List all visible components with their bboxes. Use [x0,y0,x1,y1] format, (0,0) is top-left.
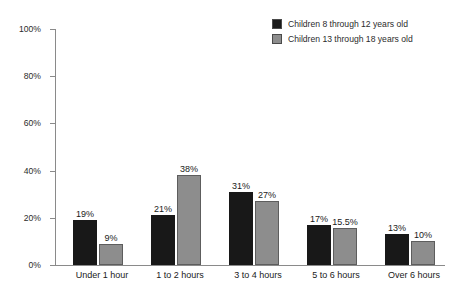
y-axis-tick-label: 100% [19,24,41,34]
y-axis-tick: 60% [50,123,55,124]
bar: 15.5% [333,228,357,265]
y-axis-tick: 40% [50,171,55,172]
bar-value-label: 38% [180,164,198,174]
bar: 17% [307,225,331,265]
x-axis-line [55,265,445,266]
y-axis-tick: 100% [50,29,55,30]
bar-value-label: 10% [414,230,432,240]
bar-value-label: 21% [154,204,172,214]
y-axis-tick: 0% [50,265,55,266]
x-axis-category-label: 1 to 2 hours [141,270,219,280]
legend-label-children-8-12: Children 8 through 12 years old [288,19,408,29]
bar-value-label: 17% [310,214,328,224]
bar: 31% [229,192,253,265]
bar-value-label: 27% [258,190,276,200]
bar-value-label: 13% [388,223,406,233]
bar-group: 13%10% [375,29,453,265]
y-axis-tick: 20% [50,218,55,219]
bar: 21% [151,215,175,265]
bar: 10% [411,241,435,265]
y-axis-tick-label: 60% [24,118,41,128]
bar-group: 31%27% [219,29,297,265]
x-axis-category-label: Over 6 hours [375,270,453,280]
y-axis-tick: 80% [50,76,55,77]
bar: 13% [385,234,409,265]
x-axis-category-label: 5 to 6 hours [297,270,375,280]
legend-swatch-icon-dark [272,19,282,29]
bar: 38% [177,175,201,265]
bar: 9% [99,244,123,265]
bar-chart: Children 8 through 12 years old Children… [0,0,465,302]
y-axis-tick-label: 80% [24,71,41,81]
bar: 27% [255,201,279,265]
y-axis-tick-label: 0% [29,260,41,270]
plot-area: 0%20%40%60%80%100% 19%9%21%38%31%27%17%1… [55,29,445,266]
bar-group: 21%38% [141,29,219,265]
bar-value-label: 19% [76,209,94,219]
x-axis-category-label: 3 to 4 hours [219,270,297,280]
bar-group: 19%9% [63,29,141,265]
bar-group: 17%15.5% [297,29,375,265]
bar-value-label: 15.5% [332,217,358,227]
y-axis-line [55,29,56,266]
y-axis-tick-label: 40% [24,166,41,176]
bar: 19% [73,220,97,265]
bar-value-label: 9% [104,233,117,243]
y-axis-tick-label: 20% [24,213,41,223]
x-axis-category-label: Under 1 hour [63,270,141,280]
bar-value-label: 31% [232,181,250,191]
